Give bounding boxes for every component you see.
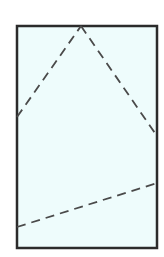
folded-rectangle-diagram xyxy=(0,0,164,257)
rectangle-frame xyxy=(17,26,157,248)
